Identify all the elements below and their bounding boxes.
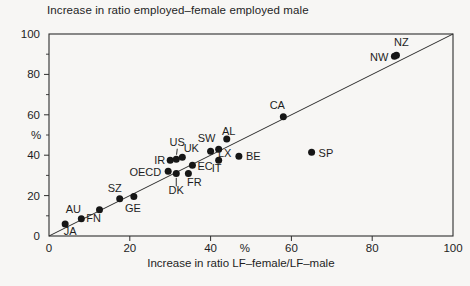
y-tick-label: 20: [27, 190, 40, 202]
y-tick-label: 40: [27, 149, 40, 161]
y-tick-label: 80: [27, 68, 40, 80]
y-tick-label: 0: [34, 230, 40, 242]
diagonal-line: [49, 34, 453, 236]
x-tick-label: 100: [443, 242, 462, 254]
point-label-AU: AU: [66, 203, 81, 215]
x-tick-label: 20: [123, 242, 136, 254]
x-tick-label: 80: [366, 242, 379, 254]
point-label-IT: IT: [212, 162, 222, 174]
point-label-CA: CA: [270, 99, 286, 111]
point-label-NZ: NZ: [394, 36, 409, 48]
data-point-DK: [173, 170, 180, 177]
x-tick-label: 40: [204, 242, 217, 254]
point-label-US: US: [170, 136, 185, 148]
leader-line-US: [177, 149, 178, 155]
point-label-AL: AL: [222, 125, 235, 137]
point-label-SZ: SZ: [108, 182, 122, 194]
data-point-NZ: [393, 52, 400, 59]
data-point-EC: [189, 162, 196, 169]
x-axis-title: Increase in ratio LF–female/LF–male: [147, 257, 334, 269]
data-point-AU: [78, 215, 85, 222]
x-tick-label: 60: [285, 242, 298, 254]
y-tick-label: 100: [21, 28, 40, 40]
data-point-IR: [167, 157, 174, 164]
point-label-DK: DK: [169, 184, 185, 196]
data-point-SP: [308, 149, 315, 156]
data-point-UK: [179, 154, 186, 161]
scatter-plot-figure: Increase in ratio employed–female employ…: [0, 0, 470, 286]
point-label-BE: BE: [246, 150, 261, 162]
point-label-GE: GE: [125, 202, 141, 214]
data-point-OECD: [165, 168, 172, 175]
x-tick-label: 0: [46, 242, 52, 254]
point-label-FR: FR: [187, 176, 202, 188]
point-label-SW: SW: [198, 132, 216, 144]
point-label-EC: EC: [197, 160, 212, 172]
data-point-US: [173, 156, 180, 163]
point-label-JA: JA: [64, 225, 78, 237]
point-label-IR: IR: [154, 154, 165, 166]
point-label-OECD: OECD: [129, 166, 161, 178]
data-point-BE: [235, 153, 242, 160]
point-label-SP: SP: [319, 147, 334, 159]
y-tick-label: 60: [27, 109, 40, 121]
point-label-NW: NW: [370, 51, 389, 63]
data-point-CA: [280, 113, 287, 120]
chart-canvas: 020406080100020406080100%%Increase in ra…: [0, 0, 470, 286]
data-point-SW: [207, 148, 214, 155]
data-point-GE: [130, 193, 137, 200]
y-axis-unit-label: %: [31, 129, 41, 141]
point-label-FN: FN: [86, 212, 101, 224]
x-axis-unit-label: %: [240, 242, 250, 254]
data-point-SZ: [116, 195, 123, 202]
